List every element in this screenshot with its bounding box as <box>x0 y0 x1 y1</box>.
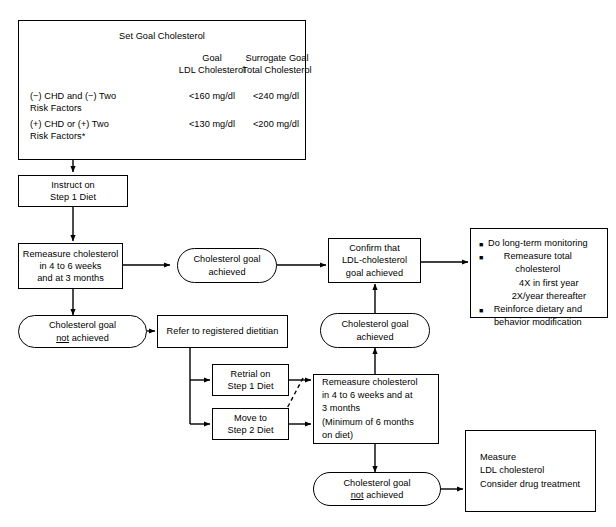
node-remeasure-cholesterol-1: Remeasure cholesterol in 4 to 6 weeks an… <box>18 243 123 289</box>
followup-list: ■ Do long-term monitoring ■ Remeasure to… <box>479 237 588 329</box>
followup-item-2-cont: behavior modification <box>488 316 588 329</box>
not-achieved-line: not achieved <box>351 489 404 501</box>
goal-table-cell-0-ldl: <160 mg/dl <box>177 90 247 102</box>
node-retrial-step1-diet: Retrial on Step 1 Diet <box>212 364 289 396</box>
node-cholesterol-goal-not-achieved-2: Cholesterol goal not achieved <box>313 472 441 506</box>
bullet-square-icon: ■ <box>479 251 483 264</box>
node-move-step2-diet: Move to Step 2 Diet <box>212 408 289 440</box>
node-cholesterol-goal-not-achieved-1: Cholesterol goal not achieved <box>18 315 147 348</box>
goal-table-row-label-1: (+) CHD or (+) Two Risk Factors* <box>30 118 109 142</box>
goal-table-cell-1-ldl: <130 mg/dl <box>177 118 247 130</box>
node-measure-ldl-drug-treatment: Measure LDL cholesterol Consider drug tr… <box>465 430 596 512</box>
bullet-square-icon: ■ <box>479 238 483 251</box>
node-refer-to-dietitian: Refer to registered dietitian <box>157 315 288 348</box>
flowchart-canvas: Set Goal Cholesterol Goal LDL Cholestero… <box>0 0 616 527</box>
followup-item-0: ■ Do long-term monitoring <box>479 237 588 250</box>
node-remeasure-cholesterol-2: Remeasure cholesterol in 4 to 6 weeks an… <box>313 374 439 444</box>
followup-item-1-sub-1: 2X/year thereafter <box>488 290 588 303</box>
goal-table-row-label-0: (−) CHD and (−) Two Risk Factors <box>30 90 116 114</box>
not-achieved-line: not achieved <box>56 332 109 344</box>
followup-item-1-sub-0: 4X in first year <box>488 277 588 290</box>
node-instruct-step1-diet: Instruct on Step 1 Diet <box>18 175 128 207</box>
goal-table-title: Set Goal Cholesterol <box>19 30 305 42</box>
node-cholesterol-goal-achieved-1: Cholesterol goal achieved <box>177 248 277 283</box>
bullet-square-icon: ■ <box>479 304 483 317</box>
node-confirm-ldl-goal-achieved: Confirm that LDL-cholesterol goal achiev… <box>328 238 421 283</box>
goal-table-cell-1-total: <200 mg/dl <box>241 118 311 130</box>
node-cholesterol-goal-achieved-2: Cholesterol goal achieved <box>320 313 430 348</box>
followup-item-1-cont: cholesterol <box>488 263 588 276</box>
goal-table-cell-0-total: <240 mg/dl <box>241 90 311 102</box>
followup-item-2: ■ Reinforce dietary and behavior modific… <box>479 303 588 329</box>
goal-cholesterol-table: Set Goal Cholesterol Goal LDL Cholestero… <box>18 20 306 160</box>
node-followup-monitoring-list: ■ Do long-term monitoring ■ Remeasure to… <box>470 228 608 318</box>
goal-table-header-total: Surrogate Goal Total Cholesterol <box>231 53 323 76</box>
followup-item-1: ■ Remeasure total cholesterol 4X in firs… <box>479 250 588 303</box>
